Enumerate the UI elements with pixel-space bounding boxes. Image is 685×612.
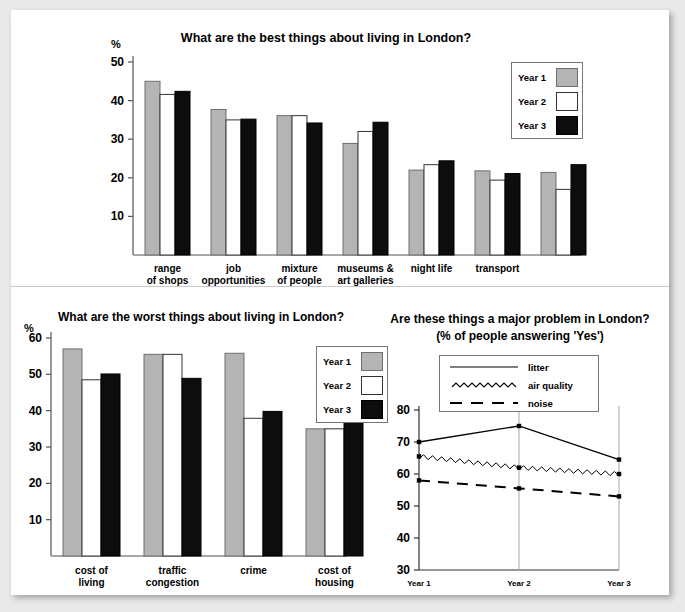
group-label: job	[225, 263, 241, 274]
group-label: night life	[411, 263, 453, 274]
bar-year2-6	[556, 189, 571, 255]
bar-year2-1	[163, 354, 182, 556]
bar-year3-0	[101, 374, 120, 556]
chart-major-problem: Are these things a major problem in Lond…	[371, 286, 669, 595]
chart-best-things: What are the best things about living in…	[11, 10, 669, 286]
legend-line-solid-icon	[448, 361, 520, 373]
y-tick-label: 40	[397, 531, 411, 545]
bar-year1-6	[541, 172, 556, 255]
data-point-marker	[417, 440, 421, 444]
y-tick-label: 50	[397, 499, 411, 513]
group-label: of shops	[147, 275, 189, 286]
legend-item-year1: Year 1	[518, 68, 578, 87]
bar-year1-3	[343, 143, 358, 255]
bar-year1-1	[144, 354, 163, 556]
legend-swatch-year1	[556, 68, 578, 87]
group-label: opportunities	[202, 275, 266, 286]
legend-item-year3: Year 3	[518, 116, 578, 135]
legend-swatch-year2	[556, 92, 578, 111]
chart-problem-legend: litter air quality noise	[439, 355, 599, 412]
chart-worst-things: What are the worst things about living i…	[11, 286, 371, 595]
y-tick-label: 60	[397, 467, 411, 481]
group-label: art galleries	[337, 275, 394, 286]
bar-year1-3	[306, 429, 325, 556]
legend-label-year2: Year 2	[518, 96, 556, 107]
legend-label-noise: noise	[528, 398, 553, 409]
bar-year1-0	[145, 81, 160, 255]
legend-label-year2: Year 2	[323, 380, 361, 391]
y-tick-label: 20	[29, 476, 43, 490]
legend-label-year1: Year 1	[518, 72, 556, 83]
data-point-marker	[517, 465, 521, 469]
legend-label-litter: litter	[528, 362, 549, 373]
group-label: range	[154, 263, 182, 274]
legend-item-noise: noise	[448, 397, 553, 409]
group-label: of people	[277, 275, 322, 286]
legend-line-zigzag-icon	[448, 379, 520, 391]
bar-year2-0	[82, 380, 101, 556]
chart-worst-plot: 102030405060cost oflivingtrafficcongesti…	[11, 286, 371, 595]
y-tick-label: 50	[111, 55, 125, 69]
data-point-marker	[617, 472, 621, 476]
x-tick-label: Year 1	[407, 579, 431, 588]
group-label: cost of	[318, 565, 351, 576]
bar-year1-5	[475, 171, 490, 255]
bar-year2-0	[160, 94, 175, 255]
bar-year1-2	[277, 116, 292, 255]
y-tick-label: 70	[397, 435, 411, 449]
bar-year3-3	[373, 122, 388, 255]
group-label: cost of	[75, 565, 108, 576]
bar-year2-2	[292, 116, 307, 255]
bar-year3-2	[263, 411, 282, 556]
legend-label-air-quality: air quality	[528, 380, 573, 391]
y-tick-label: 10	[111, 209, 125, 223]
group-label: congestion	[146, 577, 199, 588]
bar-year2-3	[358, 131, 373, 255]
chart-best-plot: 1020304050rangeof shopsjobopportunitiesm…	[11, 10, 669, 286]
y-tick-label: 30	[397, 563, 411, 577]
bar-year1-2	[225, 353, 244, 556]
group-label: transport	[476, 263, 521, 274]
y-tick-label: 20	[111, 171, 125, 185]
bar-year1-4	[409, 170, 424, 255]
x-tick-label: Year 2	[507, 579, 531, 588]
bar-year2-2	[244, 418, 263, 556]
bar-year3-2	[307, 123, 322, 255]
y-tick-label: 60	[29, 331, 43, 345]
group-label: housing	[315, 577, 354, 588]
legend-label-year3: Year 3	[518, 120, 556, 131]
data-point-marker	[417, 454, 421, 458]
legend-item-litter: litter	[448, 361, 549, 373]
y-tick-label: 40	[111, 94, 125, 108]
chart-problem-plot: 304050607080Year 1Year 2Year 3	[371, 286, 669, 595]
data-point-marker	[517, 424, 521, 428]
legend-line-dashed-icon	[448, 397, 520, 409]
bar-year2-1	[226, 120, 241, 255]
bar-year2-5	[490, 180, 505, 255]
y-tick-label: 50	[29, 367, 43, 381]
group-label: museums &	[337, 263, 394, 274]
bar-year3-4	[439, 161, 454, 255]
bar-year3-0	[175, 91, 190, 255]
data-point-marker	[617, 494, 621, 498]
y-tick-label: 40	[29, 404, 43, 418]
y-tick-label: 30	[29, 440, 43, 454]
bar-year1-1	[211, 109, 226, 255]
bar-year3-1	[182, 378, 201, 556]
bar-year2-3	[325, 429, 344, 556]
bar-year3-1	[241, 119, 256, 255]
group-label: mixture	[281, 263, 318, 274]
x-tick-label: Year 3	[607, 579, 631, 588]
y-tick-label: 80	[397, 403, 411, 417]
data-point-marker	[517, 486, 521, 490]
legend-item-air-quality: air quality	[448, 379, 573, 391]
group-label: crime	[240, 565, 267, 576]
legend-swatch-year3	[556, 116, 578, 135]
bar-year1-0	[63, 349, 82, 556]
bar-year2-4	[424, 165, 439, 255]
page-sheet: What are the best things about living in…	[11, 10, 669, 595]
y-tick-label: 30	[111, 132, 125, 146]
legend-item-year2: Year 2	[518, 92, 578, 111]
chart-best-legend: Year 1 Year 2 Year 3	[511, 62, 583, 139]
group-label: living	[78, 577, 104, 588]
